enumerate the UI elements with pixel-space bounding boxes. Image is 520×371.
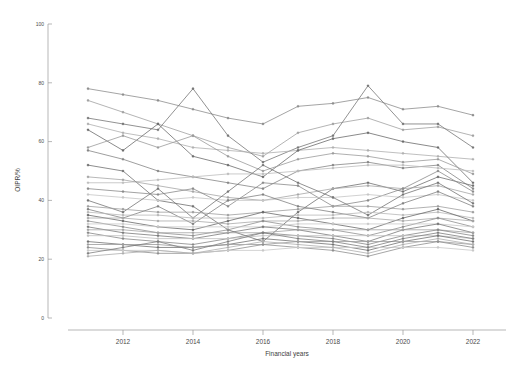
series-marker bbox=[122, 190, 124, 192]
series-marker bbox=[157, 146, 159, 148]
series-marker bbox=[262, 238, 264, 240]
series-marker bbox=[87, 235, 89, 237]
series-marker bbox=[367, 205, 369, 207]
series-marker bbox=[402, 202, 404, 204]
series-marker bbox=[87, 149, 89, 151]
series-marker bbox=[122, 232, 124, 234]
series-marker bbox=[402, 152, 404, 154]
series-marker bbox=[472, 146, 474, 148]
series-line bbox=[88, 218, 473, 224]
series-marker bbox=[157, 188, 159, 190]
series-marker bbox=[472, 205, 474, 207]
series-marker bbox=[157, 123, 159, 125]
series-marker bbox=[157, 243, 159, 245]
series-marker bbox=[157, 226, 159, 228]
series-marker bbox=[367, 235, 369, 237]
series-marker bbox=[367, 223, 369, 225]
series-marker bbox=[472, 240, 474, 242]
series-marker bbox=[297, 226, 299, 228]
series-marker bbox=[157, 232, 159, 234]
series-marker bbox=[262, 182, 264, 184]
series-marker bbox=[297, 182, 299, 184]
series-marker bbox=[402, 214, 404, 216]
series-marker bbox=[157, 129, 159, 131]
series-marker bbox=[157, 246, 159, 248]
series-marker bbox=[192, 232, 194, 234]
series-marker bbox=[367, 255, 369, 257]
series-marker bbox=[157, 185, 159, 187]
series-marker bbox=[227, 164, 229, 166]
series-marker bbox=[227, 135, 229, 137]
y-axis-title: OIPR/% bbox=[14, 168, 21, 192]
series-marker bbox=[122, 246, 124, 248]
series-marker bbox=[297, 146, 299, 148]
series-marker bbox=[472, 173, 474, 175]
series-marker bbox=[157, 240, 159, 242]
series-marker bbox=[157, 220, 159, 222]
series-marker bbox=[367, 164, 369, 166]
series-marker bbox=[297, 229, 299, 231]
series-marker bbox=[437, 238, 439, 240]
series-marker bbox=[297, 246, 299, 248]
series-marker bbox=[87, 229, 89, 231]
series-marker bbox=[367, 246, 369, 248]
series-marker bbox=[472, 199, 474, 201]
series-marker bbox=[472, 226, 474, 228]
series-marker bbox=[332, 188, 334, 190]
series-marker bbox=[227, 117, 229, 119]
series-marker bbox=[402, 240, 404, 242]
series-marker bbox=[437, 176, 439, 178]
series-marker bbox=[262, 249, 264, 251]
series-marker bbox=[297, 185, 299, 187]
series-marker bbox=[227, 232, 229, 234]
y-tick-label: 20 bbox=[38, 256, 44, 262]
series-marker bbox=[472, 217, 474, 219]
series-marker bbox=[262, 164, 264, 166]
series-marker bbox=[227, 182, 229, 184]
series-marker bbox=[192, 217, 194, 219]
series-marker bbox=[227, 173, 229, 175]
series-marker bbox=[262, 152, 264, 154]
data-series-group bbox=[87, 85, 474, 258]
series-marker bbox=[122, 149, 124, 151]
series-marker bbox=[122, 220, 124, 222]
series-marker bbox=[437, 126, 439, 128]
series-marker bbox=[437, 240, 439, 242]
series-marker bbox=[227, 196, 229, 198]
series-marker bbox=[122, 211, 124, 213]
series-marker bbox=[227, 149, 229, 151]
series-marker bbox=[297, 193, 299, 195]
series-marker bbox=[402, 223, 404, 225]
series-marker bbox=[332, 249, 334, 251]
series-marker bbox=[87, 232, 89, 234]
series-marker bbox=[227, 249, 229, 251]
series-marker bbox=[192, 249, 194, 251]
series-marker bbox=[227, 240, 229, 242]
series-marker bbox=[332, 235, 334, 237]
series-marker bbox=[437, 185, 439, 187]
series-marker bbox=[367, 217, 369, 219]
series-marker bbox=[87, 220, 89, 222]
y-tick-label: 40 bbox=[38, 197, 44, 203]
series-marker bbox=[262, 188, 264, 190]
series-marker bbox=[122, 182, 124, 184]
series-marker bbox=[192, 252, 194, 254]
series-marker bbox=[367, 199, 369, 201]
series-marker bbox=[157, 99, 159, 101]
series-marker bbox=[437, 223, 439, 225]
series-marker bbox=[437, 155, 439, 157]
data-series bbox=[87, 170, 474, 207]
series-marker bbox=[402, 123, 404, 125]
series-marker bbox=[227, 243, 229, 245]
series-marker bbox=[437, 205, 439, 207]
series-marker bbox=[437, 235, 439, 237]
series-marker bbox=[367, 85, 369, 87]
series-marker bbox=[192, 155, 194, 157]
series-marker bbox=[192, 243, 194, 245]
series-marker bbox=[192, 176, 194, 178]
series-marker bbox=[332, 214, 334, 216]
series-marker bbox=[157, 252, 159, 254]
series-marker bbox=[472, 182, 474, 184]
series-marker bbox=[87, 246, 89, 248]
series-marker bbox=[367, 185, 369, 187]
